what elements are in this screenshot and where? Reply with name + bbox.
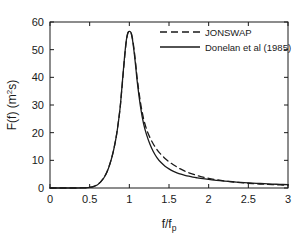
y-tick-label: 50 [32, 44, 44, 56]
legend-label-jonswap: JONSWAP [205, 27, 252, 38]
x-tick-label: 0 [47, 193, 53, 205]
x-tick-label: 1.5 [161, 193, 176, 205]
y-tick-label: 0 [38, 182, 44, 194]
x-tick-label: 2 [206, 193, 212, 205]
y-axis-title: F(f) (m2s) [5, 80, 19, 130]
y-axis-tick-labels: 0102030405060 [32, 16, 44, 194]
figure-container: 00.511.522.53 0102030405060 f/fp F(f) (m… [0, 0, 307, 239]
x-axis-title: f/fp [162, 217, 177, 233]
y-tick-label: 20 [32, 127, 44, 139]
chart-plot: 00.511.522.53 0102030405060 f/fp F(f) (m… [0, 0, 307, 239]
x-tick-label: 0.5 [82, 193, 97, 205]
x-axis-tick-labels: 00.511.522.53 [47, 193, 291, 205]
y-tick-label: 30 [32, 99, 44, 111]
x-tick-label: 1 [126, 193, 132, 205]
legend-label-donelan: Donelan et al (1985) [205, 42, 291, 53]
y-tick-label: 60 [32, 16, 44, 28]
y-tick-label: 40 [32, 71, 44, 83]
x-tick-label: 3 [285, 193, 291, 205]
x-tick-label: 2.5 [241, 193, 256, 205]
y-tick-label: 10 [32, 154, 44, 166]
